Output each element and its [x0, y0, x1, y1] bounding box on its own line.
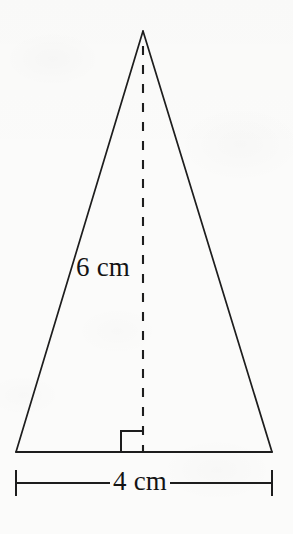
triangle-right-side: [143, 31, 272, 452]
triangle-diagram: [0, 0, 293, 534]
figure-canvas: 6 cm 4 cm: [0, 0, 293, 534]
right-angle-marker: [121, 431, 143, 452]
base-length-label: 4 cm: [110, 468, 170, 495]
triangle-left-side: [16, 31, 143, 452]
side-length-label: 6 cm: [76, 254, 130, 281]
